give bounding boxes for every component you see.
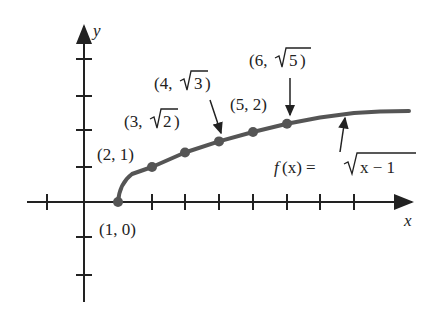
function-curve <box>118 111 409 202</box>
svg-text:(4,: (4, <box>154 74 172 93</box>
x-axis-label: x <box>403 211 412 230</box>
label-point-4: (4, 3 ) <box>154 71 211 93</box>
svg-text:2: 2 <box>163 112 172 131</box>
y-axis-label: y <box>91 21 101 40</box>
svg-text:): ) <box>174 112 180 131</box>
svg-text:x − 1: x − 1 <box>360 158 395 177</box>
arrow-point-4 <box>210 100 221 133</box>
label-point-5-2: (5, 2) <box>230 95 267 114</box>
svg-text:f: f <box>274 158 281 177</box>
svg-text:(x) =: (x) = <box>282 158 316 177</box>
label-point-6: (6, 5 ) <box>249 48 311 70</box>
label-point-1-0: (1, 0) <box>99 220 136 239</box>
arrow-function-label <box>340 118 345 152</box>
label-point-3: (3, 2 ) <box>124 109 180 131</box>
label-point-2-1: (2, 1) <box>97 145 134 164</box>
function-graph: y x (1, 0) (2, 1) (3, 2 ) (4, 3 ) (5, 2)… <box>0 0 434 316</box>
svg-text:(6,: (6, <box>249 51 267 70</box>
svg-text:3: 3 <box>194 74 203 93</box>
function-label: f (x) = x − 1 <box>274 153 416 177</box>
svg-text:): ) <box>205 74 211 93</box>
data-points <box>113 119 292 207</box>
svg-text:): ) <box>300 51 306 70</box>
svg-text:5: 5 <box>289 51 298 70</box>
svg-text:(3,: (3, <box>124 112 142 131</box>
